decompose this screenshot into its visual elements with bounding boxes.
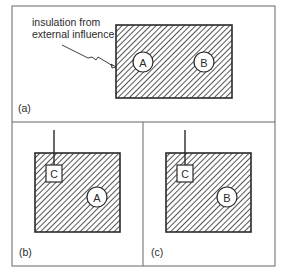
panel-a-label: (a) (18, 102, 31, 114)
circle-b-label: B (223, 192, 230, 204)
circle-a-label: A (93, 192, 101, 204)
panel-b-label: (b) (19, 246, 32, 258)
leader-line (62, 45, 113, 66)
panel-a: A B insulation from external influence (… (18, 16, 232, 114)
circle-a-label: A (139, 57, 147, 69)
annotation-line-1: insulation from (32, 16, 101, 28)
circle-b-label: B (200, 57, 207, 69)
probe-c-label: C (50, 168, 58, 180)
annotation-line-2: external influence (32, 28, 114, 40)
panel-c-label: (c) (151, 246, 163, 258)
panel-b: C A (b) (19, 130, 120, 258)
probe-c-label: C (181, 168, 189, 180)
figure-diagram: A B insulation from external influence (… (0, 0, 284, 276)
panel-c: C B (c) (151, 130, 251, 258)
